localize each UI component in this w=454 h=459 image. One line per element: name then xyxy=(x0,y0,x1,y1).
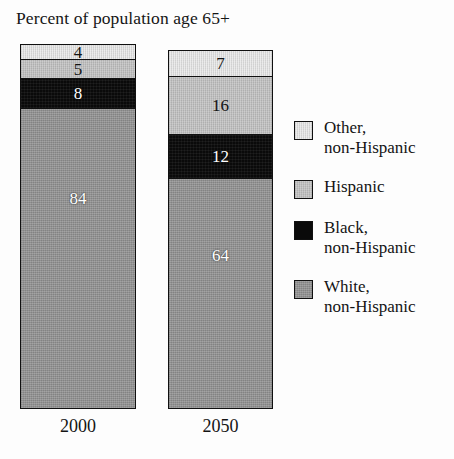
legend-item-other-non-hispanic: Other, non-Hispanic xyxy=(294,118,454,158)
legend-item-label: White, non-Hispanic xyxy=(324,277,416,317)
legend: Other, non-Hispanic Hispanic Black, non-… xyxy=(294,118,454,336)
x-axis-label-2000: 2000 xyxy=(20,416,136,437)
bar-segment-value: 12 xyxy=(212,148,229,165)
legend-item-hispanic: Hispanic xyxy=(294,177,454,199)
legend-swatch-icon xyxy=(294,121,313,140)
bar-segment-value: 64 xyxy=(212,247,229,264)
legend-item-black-non-hispanic: Black, non-Hispanic xyxy=(294,218,454,258)
bar-segment-2050-black: 12 xyxy=(169,134,272,178)
chart-figure: Percent of population age 65+ 4 5 8 84 7… xyxy=(0,0,454,459)
legend-swatch-icon xyxy=(294,221,313,240)
bar-segment-2000-black: 8 xyxy=(21,78,135,108)
legend-swatch-icon xyxy=(294,280,313,299)
bar-segment-2050-hispanic: 16 xyxy=(169,76,272,134)
x-axis-label-2050: 2050 xyxy=(168,416,273,437)
bar-segment-value: 84 xyxy=(70,190,87,207)
legend-item-label: Other, non-Hispanic xyxy=(324,118,416,158)
bar-segment-2050-other: 7 xyxy=(169,51,272,76)
page-title: Percent of population age 65+ xyxy=(16,8,230,29)
bar-segment-2000-white: 84 xyxy=(21,108,135,408)
bar-segment-value: 16 xyxy=(212,97,229,114)
legend-item-white-non-hispanic: White, non-Hispanic xyxy=(294,277,454,317)
bar-segment-2050-white: 64 xyxy=(169,178,272,408)
bar-segment-value: 7 xyxy=(216,55,225,72)
bar-segment-2000-hispanic: 5 xyxy=(21,59,135,78)
bar-segment-value: 8 xyxy=(74,85,83,102)
legend-item-label: Black, non-Hispanic xyxy=(324,218,416,258)
legend-swatch-icon xyxy=(294,180,313,199)
legend-item-label: Hispanic xyxy=(324,177,384,197)
bar-segment-2000-other: 4 xyxy=(21,45,135,59)
stacked-bar-2000: 4 5 8 84 xyxy=(20,44,136,409)
stacked-bar-2050: 7 16 12 64 xyxy=(168,50,273,409)
bar-segment-value: 4 xyxy=(74,45,83,59)
bar-segment-value: 5 xyxy=(74,61,83,78)
